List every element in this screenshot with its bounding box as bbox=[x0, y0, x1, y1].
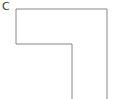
l-shape-outline bbox=[0, 0, 117, 99]
l-shape-path bbox=[16, 9, 107, 99]
